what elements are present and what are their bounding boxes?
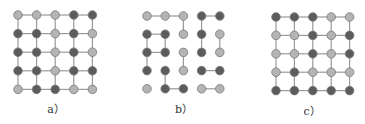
node-light: [179, 48, 188, 57]
node-light: [179, 30, 188, 39]
node-dark: [179, 85, 188, 94]
node-dark: [345, 50, 354, 59]
node-dark: [290, 68, 299, 77]
node-dark: [197, 48, 206, 57]
node-light: [143, 12, 152, 21]
node-dark: [272, 86, 281, 95]
node-dark: [161, 66, 170, 75]
node-dark: [309, 86, 318, 95]
node-dark: [309, 31, 318, 40]
grid-b: [143, 12, 224, 93]
caption-c: c）: [292, 102, 332, 118]
node-light: [345, 68, 354, 77]
node-light: [161, 12, 170, 21]
node-light: [216, 85, 225, 94]
node-light: [216, 30, 225, 39]
node-dark: [290, 86, 299, 95]
node-dark: [161, 30, 170, 39]
caption-b: b）: [164, 100, 204, 116]
node-dark: [143, 48, 152, 57]
node-light: [327, 13, 336, 22]
node-light: [216, 48, 225, 57]
node-dark: [345, 86, 354, 95]
node-dark: [272, 13, 281, 22]
node-light: [143, 85, 152, 94]
node-dark: [143, 66, 152, 75]
node-light: [345, 13, 354, 22]
node-light: [197, 85, 206, 94]
node-light: [327, 50, 336, 59]
node-dark: [309, 13, 318, 22]
panel-c: c）: [0, 0, 122, 124]
node-dark: [345, 31, 354, 40]
node-light: [179, 66, 188, 75]
node-light: [179, 12, 188, 21]
node-dark: [197, 12, 206, 21]
node-light: [327, 31, 336, 40]
grid-c: [272, 13, 354, 95]
node-dark: [290, 13, 299, 22]
node-dark: [161, 85, 170, 94]
node-light: [290, 50, 299, 59]
node-light: [309, 68, 318, 77]
node-light: [272, 68, 281, 77]
node-dark: [197, 30, 206, 39]
node-dark: [216, 12, 225, 21]
node-dark: [161, 48, 170, 57]
node-dark: [143, 30, 152, 39]
node-light: [272, 31, 281, 40]
node-dark: [197, 66, 206, 75]
node-light: [272, 50, 281, 59]
node-dark: [216, 66, 225, 75]
node-dark: [309, 50, 318, 59]
node-light: [327, 68, 336, 77]
node-light: [290, 31, 299, 40]
node-dark: [327, 86, 336, 95]
